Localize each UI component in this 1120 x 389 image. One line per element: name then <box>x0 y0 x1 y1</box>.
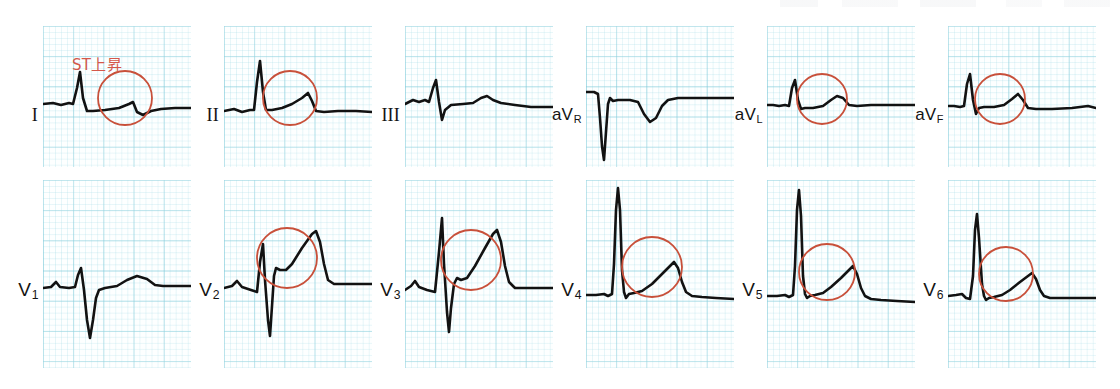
ecg-panel-avf <box>948 26 1096 167</box>
ecg-panel-v3 <box>405 180 553 368</box>
ecg-waveform-v2 <box>224 180 372 368</box>
lead-label-avl: aVL <box>735 106 762 123</box>
ecg-panel-v2 <box>224 180 372 368</box>
lead-label-ii: II <box>207 106 219 124</box>
ecg-waveform-v3 <box>405 180 553 368</box>
lead-label-i: I <box>32 106 38 124</box>
ecg-waveform-v6 <box>948 180 1096 368</box>
ecg-waveform-avf <box>948 26 1096 167</box>
ecg-waveform-v5 <box>767 180 915 368</box>
ecg-waveform-avr <box>586 26 734 167</box>
lead-label-v2: V2 <box>199 280 219 299</box>
ecg-waveform-iii <box>405 26 553 167</box>
lead-label-v6: V6 <box>923 280 943 299</box>
lead-label-iii: III <box>381 106 400 124</box>
st-elevation-annotation: ST上昇 <box>72 53 122 74</box>
ecg-panel-i <box>43 26 191 167</box>
ecg-panel-v4 <box>586 180 734 368</box>
ecg-panel-avr <box>586 26 734 167</box>
ecg-panel-avl <box>767 26 915 167</box>
ecg-waveform-v1 <box>43 180 191 368</box>
ecg-panel-v5 <box>767 180 915 368</box>
lead-label-v1: V1 <box>18 280 38 299</box>
lead-label-avr: aVR <box>552 106 581 123</box>
lead-label-v3: V3 <box>380 280 400 299</box>
ecg-waveform-ii <box>224 26 372 167</box>
ecg-waveform-i <box>43 26 191 167</box>
ecg-panel-v6 <box>948 180 1096 368</box>
page-top-artifact <box>780 0 1110 7</box>
ecg-waveform-v4 <box>586 180 734 368</box>
ecg-panel-v1 <box>43 180 191 368</box>
ecg-panel-ii <box>224 26 372 167</box>
ecg-figure: IIIIIIaVRaVLaVFV1V2V3V4V5V6ST上昇 <box>0 0 1120 389</box>
lead-label-avf: aVF <box>915 106 943 123</box>
ecg-waveform-avl <box>767 26 915 167</box>
lead-label-v4: V4 <box>561 280 581 299</box>
ecg-panel-iii <box>405 26 553 167</box>
lead-label-v5: V5 <box>742 280 762 299</box>
